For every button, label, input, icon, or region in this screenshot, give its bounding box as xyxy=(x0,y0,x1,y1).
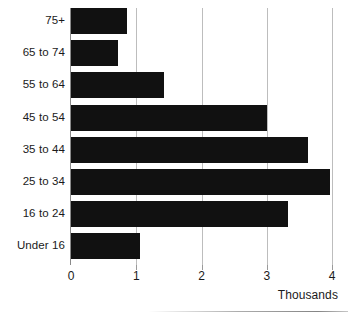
category-label: 45 to 54 xyxy=(0,112,65,124)
x-tick-label-0: 0 xyxy=(56,270,86,282)
bar-row xyxy=(71,233,332,259)
category-label: 75+ xyxy=(0,15,65,27)
category-label: 55 to 64 xyxy=(0,79,65,91)
bar-row xyxy=(71,169,332,195)
x-tick-label-1: 1 xyxy=(121,270,151,282)
bar-row xyxy=(71,201,332,227)
bar xyxy=(71,233,140,259)
bar xyxy=(71,201,288,227)
bar-row xyxy=(71,8,332,34)
category-label: 65 to 74 xyxy=(0,47,65,59)
bar-chart: 75+65 to 7455 to 6445 to 5435 to 4425 to… xyxy=(0,0,348,315)
category-label: 25 to 34 xyxy=(0,176,65,188)
bar xyxy=(71,40,118,66)
page-edge-rule xyxy=(148,311,348,312)
bar-row xyxy=(71,105,332,131)
bar-row xyxy=(71,137,332,163)
bar xyxy=(71,72,164,98)
x-tick-label-3: 3 xyxy=(252,270,282,282)
category-label: Under 16 xyxy=(0,240,65,252)
bar-row xyxy=(71,72,332,98)
bar-series xyxy=(71,8,332,265)
bar xyxy=(71,137,308,163)
bar xyxy=(71,8,127,34)
category-label: 16 to 24 xyxy=(0,208,65,220)
bar xyxy=(71,105,267,131)
bar-row xyxy=(71,40,332,66)
category-label: 35 to 44 xyxy=(0,144,65,156)
plot-area xyxy=(71,8,332,265)
x-tick-label-2: 2 xyxy=(187,270,217,282)
gridline-4 xyxy=(332,8,333,265)
x-tick-label-4: 4 xyxy=(317,270,347,282)
x-axis-title: Thousands xyxy=(278,289,338,301)
bar xyxy=(71,169,330,195)
